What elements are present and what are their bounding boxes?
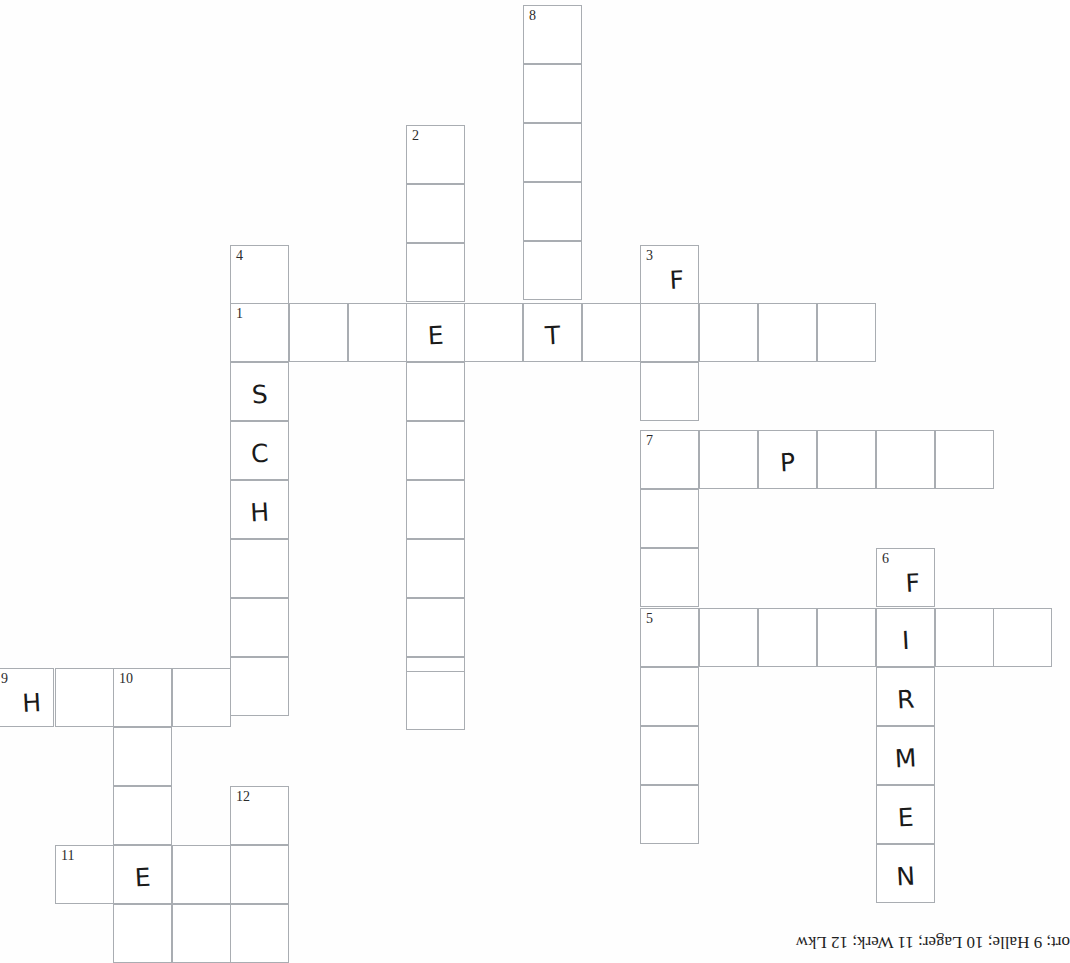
crossword-cell[interactable] <box>406 598 465 657</box>
crossword-cell[interactable] <box>406 539 465 598</box>
crossword-cell[interactable] <box>230 845 289 904</box>
crossword-cell[interactable] <box>640 726 699 785</box>
crossword-cell[interactable]: 9H <box>0 668 54 727</box>
crossword-cell[interactable] <box>289 303 348 362</box>
crossword-cell[interactable] <box>230 904 289 963</box>
crossword-cell[interactable]: 1 <box>230 303 289 362</box>
crossword-cell[interactable] <box>523 64 582 123</box>
crossword-cell[interactable]: S <box>230 362 289 421</box>
crossword-cell[interactable] <box>640 303 699 362</box>
crossword-cell[interactable] <box>113 727 172 786</box>
crossword-cell[interactable] <box>817 608 876 667</box>
crossword-cell[interactable]: E <box>113 845 172 904</box>
clue-number: 1 <box>236 306 243 321</box>
clue-number: 12 <box>236 789 250 804</box>
cell-letter: S <box>230 362 290 422</box>
crossword-cell[interactable] <box>406 421 465 480</box>
crossword-cell[interactable] <box>406 243 465 302</box>
cell-letter: E <box>113 845 173 905</box>
crossword-cell[interactable] <box>406 362 465 421</box>
cell-letter: N <box>876 844 936 904</box>
crossword-cell[interactable] <box>464 303 523 362</box>
crossword-cell[interactable]: H <box>230 480 289 539</box>
crossword-cell[interactable] <box>406 480 465 539</box>
crossword-cell[interactable]: 5 <box>640 608 699 667</box>
crossword-cell[interactable]: 2 <box>406 125 465 184</box>
crossword-cell[interactable] <box>348 303 407 362</box>
crossword-cell[interactable] <box>640 489 699 548</box>
clue-number: 4 <box>236 248 243 263</box>
crossword-cell[interactable]: N <box>876 844 935 903</box>
crossword-cell[interactable] <box>172 904 231 963</box>
cell-letter: C <box>230 421 290 481</box>
clue-number: 2 <box>412 128 419 143</box>
cell-letter: E <box>876 785 936 845</box>
crossword-cell[interactable] <box>172 668 231 727</box>
clue-number: 7 <box>646 433 653 448</box>
crossword-cell[interactable]: 4 <box>230 245 289 304</box>
cell-letter: I <box>876 608 936 668</box>
crossword-cell[interactable]: R <box>876 667 935 726</box>
crossword-cell[interactable] <box>230 598 289 657</box>
crossword-cell[interactable] <box>230 539 289 598</box>
crossword-cell[interactable]: 7 <box>640 430 699 489</box>
crossword-cell[interactable] <box>640 785 699 844</box>
crossword-cell[interactable] <box>640 548 699 607</box>
crossword-cell[interactable] <box>935 608 994 667</box>
crossword-cell[interactable] <box>640 667 699 726</box>
crossword-cell[interactable] <box>876 430 935 489</box>
cell-letter: E <box>406 303 466 363</box>
crossword-cell[interactable] <box>699 608 758 667</box>
crossword-cell[interactable] <box>817 303 876 362</box>
crossword-cell[interactable]: E <box>406 303 465 362</box>
cell-letter: P <box>758 430 818 490</box>
crossword-cell[interactable]: T <box>523 303 582 362</box>
crossword-cell[interactable] <box>523 182 582 241</box>
crossword-cell[interactable] <box>230 657 289 716</box>
cell-letter: F <box>640 245 700 305</box>
cell-letter: T <box>523 303 583 363</box>
crossword-cell[interactable]: P <box>758 430 817 489</box>
crossword-cell[interactable] <box>699 430 758 489</box>
crossword-cell[interactable] <box>817 430 876 489</box>
crossword-cell[interactable] <box>758 303 817 362</box>
crossword-cell[interactable]: E <box>876 785 935 844</box>
cell-letter: R <box>876 667 936 727</box>
crossword-cell[interactable]: 3F <box>640 245 699 304</box>
crossword-cell[interactable] <box>993 608 1052 667</box>
crossword-cell[interactable] <box>640 362 699 421</box>
cell-letter: M <box>876 726 936 786</box>
crossword-cell[interactable]: M <box>876 726 935 785</box>
crossword-cell[interactable] <box>406 671 465 730</box>
clue-number: 11 <box>61 848 74 863</box>
crossword-cell[interactable]: 12 <box>230 786 289 845</box>
crossword-cell[interactable] <box>935 430 994 489</box>
clue-number: 5 <box>646 611 653 626</box>
crossword-cell[interactable] <box>113 786 172 845</box>
crossword-cell[interactable] <box>523 123 582 182</box>
clue-number: 8 <box>529 8 536 23</box>
crossword-cell[interactable]: 6F <box>876 548 935 607</box>
crossword-cell[interactable]: 8 <box>523 5 582 64</box>
crossword-cell[interactable]: C <box>230 421 289 480</box>
crossword-cell[interactable] <box>582 303 641 362</box>
clue-number: 10 <box>119 671 133 686</box>
crossword-cell[interactable] <box>55 668 114 727</box>
crossword-cell[interactable]: 11 <box>55 845 114 904</box>
footer-answer-key-text: ort; 9 Halle; 10 Lager; 11 Werk; 12 Lkw <box>690 932 1070 952</box>
cell-letter: H <box>230 480 290 540</box>
crossword-cell[interactable] <box>406 184 465 243</box>
cell-letter: H <box>0 668 54 728</box>
crossword-cell[interactable]: 10 <box>113 668 172 727</box>
crossword-cell[interactable]: I <box>876 608 935 667</box>
crossword-cell[interactable] <box>699 303 758 362</box>
crossword-cell[interactable] <box>113 904 172 963</box>
crossword-cell[interactable] <box>758 608 817 667</box>
crossword-cell[interactable] <box>172 845 231 904</box>
cell-letter: F <box>876 548 936 608</box>
crossword-cell[interactable] <box>523 241 582 300</box>
